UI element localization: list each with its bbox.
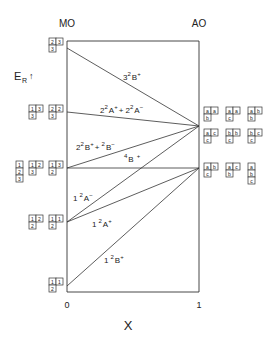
young-tableau: 223 — [49, 105, 63, 119]
svg-text:1: 1 — [31, 162, 34, 168]
ao-label: AO — [192, 18, 207, 29]
svg-text:a: a — [213, 108, 216, 114]
young-tableau: 133 — [29, 105, 43, 119]
svg-text:1: 1 — [58, 279, 61, 285]
young-tableau: 132 — [49, 161, 63, 175]
state-lines — [67, 48, 199, 286]
svg-text:2: 2 — [31, 223, 34, 229]
young-tableau: 112 — [49, 278, 63, 292]
svg-text:a: a — [250, 164, 253, 170]
x-tick-1: 1 — [196, 300, 201, 310]
svg-text:a: a — [228, 108, 231, 114]
svg-text:3: 3 — [58, 162, 61, 168]
young-tableau: acc — [204, 129, 218, 143]
svg-text:b: b — [228, 171, 231, 177]
young-tableau: 233 — [49, 38, 63, 52]
svg-text:2: 2 — [51, 223, 54, 229]
svg-text:1: 1 — [51, 162, 54, 168]
x-tick-0: 0 — [64, 300, 69, 310]
svg-text:2: 2 — [38, 216, 41, 222]
svg-text:a: a — [206, 108, 209, 114]
svg-text:b: b — [235, 130, 238, 136]
svg-text:a: a — [250, 108, 253, 114]
svg-text:2: 2 — [18, 169, 21, 175]
young-tableau: 112 — [49, 215, 63, 229]
svg-text:2: 2 — [38, 162, 41, 168]
svg-text:a: a — [228, 164, 231, 170]
svg-text:a: a — [235, 108, 238, 114]
svg-text:b: b — [250, 171, 253, 177]
svg-text:3: 3 — [18, 176, 21, 182]
young-tableau: abc — [248, 163, 255, 184]
svg-text:a: a — [206, 164, 209, 170]
svg-text:1: 1 — [18, 162, 21, 168]
label-3-2B-plus: 32B+ — [123, 71, 141, 82]
y-axis-label: E R ↑ — [14, 70, 34, 84]
svg-text:E: E — [14, 70, 21, 82]
svg-text:1: 1 — [58, 216, 61, 222]
label-1-2B-plus: 12B+ — [104, 254, 124, 265]
svg-text:b: b — [257, 108, 260, 114]
label-1-2A-minus: 12A− — [73, 192, 93, 203]
svg-text:2: 2 — [58, 106, 61, 112]
svg-text:a: a — [206, 130, 209, 136]
svg-text:1: 1 — [31, 106, 34, 112]
label-2-2A-plus-2-2A-minus: 22A++ 22A− — [100, 104, 144, 115]
svg-text:b: b — [206, 115, 209, 121]
state-line — [67, 126, 199, 222]
svg-text:2: 2 — [51, 106, 54, 112]
svg-text:b: b — [213, 164, 216, 170]
svg-text:2: 2 — [51, 39, 54, 45]
correlation-diagram: MO AO E R ↑ 0 1 X 32B+ 22A++ 22A− 22B++ … — [0, 0, 271, 347]
svg-text:b: b — [250, 130, 253, 136]
young-tableau: abc — [204, 163, 218, 177]
svg-text:3: 3 — [38, 106, 41, 112]
svg-text:b: b — [250, 115, 253, 121]
label-2-2B-plus-2B-minus: 22B++ 2B− — [76, 141, 115, 152]
svg-text:R: R — [22, 77, 27, 84]
label-4B-plus: 4B+ — [124, 153, 141, 164]
svg-text:3: 3 — [31, 113, 34, 119]
svg-text:b: b — [228, 130, 231, 136]
svg-text:1: 1 — [51, 216, 54, 222]
up-arrow-icon: ↑ — [29, 71, 34, 81]
young-tableau: aac — [226, 107, 240, 121]
young-tableau: abb — [248, 107, 262, 121]
svg-text:3: 3 — [51, 113, 54, 119]
label-1-2A-plus: 12A+ — [92, 218, 112, 229]
young-tableau: aab — [204, 107, 218, 121]
svg-text:1: 1 — [51, 279, 54, 285]
svg-text:3: 3 — [31, 169, 34, 175]
svg-text:3: 3 — [58, 39, 61, 45]
state-line — [67, 168, 199, 286]
young-tableau: acb — [226, 163, 240, 177]
mo-label: MO — [59, 18, 75, 29]
young-tableau: bbc — [226, 129, 240, 143]
young-tableau: 123 — [29, 161, 43, 175]
young-tableau: 123 — [16, 161, 23, 182]
svg-text:2: 2 — [51, 169, 54, 175]
svg-text:1: 1 — [31, 216, 34, 222]
young-tableau: bcc — [248, 129, 262, 143]
ao-tableaux: aabaacabbaccbbcbccabcacbabc — [204, 107, 262, 184]
svg-text:2: 2 — [51, 286, 54, 292]
svg-text:3: 3 — [51, 46, 54, 52]
young-tableau: 122 — [29, 215, 43, 229]
x-axis-label: X — [124, 318, 133, 333]
